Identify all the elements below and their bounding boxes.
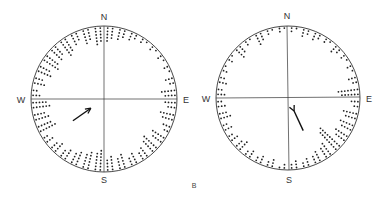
data-dot [307, 161, 309, 163]
data-dot [330, 144, 332, 146]
data-dot [152, 150, 154, 152]
data-dot [161, 91, 163, 93]
data-dot [157, 57, 159, 59]
data-dot [279, 167, 281, 169]
data-dot [46, 135, 48, 137]
data-dot [230, 126, 232, 128]
data-dot [338, 130, 340, 132]
data-dot [327, 150, 329, 152]
left-mean-arrow [73, 108, 91, 121]
data-dot [166, 130, 168, 132]
data-dot [128, 39, 130, 41]
data-dot [41, 79, 43, 81]
data-dot [343, 121, 345, 123]
data-dot [329, 41, 331, 43]
data-dot [142, 39, 144, 41]
data-dot [279, 31, 281, 33]
data-dot [111, 37, 113, 39]
data-dot [352, 82, 354, 84]
data-dot [80, 152, 82, 154]
data-dot [271, 29, 273, 31]
data-dot [174, 102, 176, 104]
right-ew-axis [216, 97, 360, 98]
data-dot [32, 102, 34, 104]
data-dot [100, 166, 102, 168]
data-dot [267, 30, 269, 32]
data-dot [38, 70, 40, 72]
data-dot [118, 161, 120, 163]
data-dot [346, 135, 348, 137]
data-dot [75, 33, 77, 35]
data-dot [124, 30, 126, 32]
data-dot [349, 111, 351, 113]
data-dot [71, 49, 73, 51]
data-dot [170, 90, 172, 92]
data-dot [351, 117, 353, 119]
data-dot [85, 157, 87, 159]
figure: N S W E N S W E B [0, 0, 382, 201]
data-dot [322, 134, 324, 136]
data-dot [323, 153, 325, 155]
data-dot [135, 35, 137, 37]
data-dot [312, 39, 314, 41]
data-dot [218, 106, 220, 108]
data-dot [291, 164, 293, 166]
data-dot [228, 127, 230, 129]
data-dot [236, 145, 238, 147]
data-dot [82, 166, 84, 168]
data-dot [78, 39, 80, 41]
data-dot [343, 55, 345, 57]
data-dot [134, 159, 136, 161]
data-dot [316, 154, 318, 156]
left-label-e: E [183, 95, 189, 105]
data-dot [100, 37, 102, 39]
data-dot [49, 139, 51, 141]
data-dot [169, 83, 171, 85]
data-dot [262, 156, 264, 158]
arrowhead-icon [289, 107, 294, 111]
data-dot [123, 33, 125, 35]
data-dot [260, 162, 262, 164]
data-dot [242, 48, 244, 50]
data-dot [335, 128, 337, 130]
data-dot [59, 51, 61, 53]
data-dot [51, 50, 53, 52]
data-dot [340, 137, 342, 139]
data-dot [303, 29, 305, 31]
data-dot [225, 65, 227, 67]
data-dot [225, 129, 227, 131]
data-dot [320, 132, 322, 134]
data-dot [57, 63, 59, 65]
data-dot [51, 125, 53, 127]
data-dot [346, 59, 348, 61]
data-dot [338, 91, 340, 93]
data-dot [355, 81, 357, 83]
data-dot [131, 153, 133, 155]
data-dot [148, 140, 150, 142]
data-dot [95, 34, 97, 36]
data-dot [71, 161, 73, 163]
data-dot [106, 37, 108, 39]
data-dot [245, 41, 247, 43]
data-dot [354, 77, 356, 79]
data-dot [39, 95, 41, 97]
data-dot [168, 95, 170, 97]
right-mean-arrow [289, 105, 303, 131]
data-dot [100, 159, 102, 161]
data-dot [344, 126, 346, 128]
data-dot [319, 159, 321, 161]
data-dot [226, 71, 228, 73]
data-dot [347, 90, 349, 92]
data-dot [64, 158, 66, 160]
data-dot [317, 157, 319, 159]
data-dot [168, 118, 170, 120]
data-dot [83, 163, 85, 165]
data-dot [55, 46, 57, 48]
data-dot [64, 150, 66, 152]
data-dot [96, 37, 98, 39]
data-dot [44, 137, 46, 139]
data-dot [220, 101, 222, 103]
data-dot [347, 127, 349, 129]
data-dot [95, 165, 97, 167]
data-dot [74, 156, 76, 158]
